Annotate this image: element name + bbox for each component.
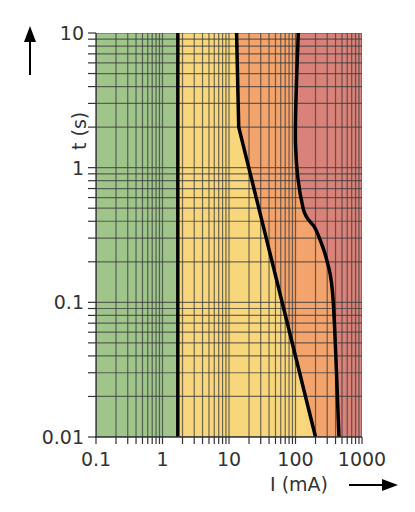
- zone-1: [96, 33, 178, 437]
- y-axis-title-group: t (s): [68, 112, 90, 150]
- y-tick-label: 0.01: [42, 426, 84, 448]
- x-tick-label: 0.1: [81, 448, 111, 470]
- y-axis-title: t (s): [68, 112, 90, 150]
- x-tick-label: 1000: [338, 448, 386, 470]
- chart: 0.111010010000.010.1110 t (s) I (mA): [0, 0, 415, 512]
- x-tick-label: 1: [156, 448, 168, 470]
- x-tick-label: 10: [217, 448, 241, 470]
- y-tick-label: 10: [60, 22, 84, 44]
- y-tick-label: 0.1: [54, 291, 84, 313]
- y-tick-label: 1: [72, 157, 84, 179]
- x-tick-label: 100: [277, 448, 313, 470]
- x-axis-title: I (mA): [270, 473, 328, 495]
- y-axis-arrow-icon: [24, 26, 36, 75]
- x-axis-arrow-icon: [349, 479, 398, 491]
